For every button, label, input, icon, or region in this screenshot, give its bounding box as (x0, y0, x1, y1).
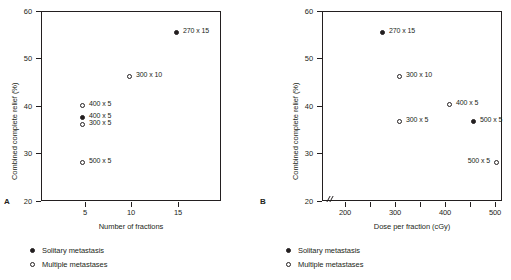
data-label-b-multiple-400x5: 400 x 5 (456, 99, 478, 106)
data-point-b-multiple-300x5[interactable] (397, 119, 402, 124)
filled-circle-icon (286, 248, 291, 253)
data-label-a-solitary-400x5: 400 x 5 (89, 112, 111, 119)
y-tick-label-a-50: 50 (10, 54, 32, 63)
open-circle-icon (30, 262, 35, 267)
legend-item-multiple-b: Multiple metastases (286, 257, 363, 271)
data-label-a-multiple-400x5: 400 x 5 (89, 100, 111, 107)
x-tick-b-350 (420, 202, 421, 207)
legend-label-multiple-b: Multiple metastases (298, 260, 363, 269)
data-point-a-multiple-300x10[interactable] (127, 74, 132, 79)
data-point-a-solitary-270x15[interactable] (174, 30, 179, 35)
legend-item-solitary-b: Solitary metastasis (286, 243, 363, 257)
data-label-a-multiple-300x5: 300 x 5 (89, 119, 111, 126)
x-tick-a-5 (85, 202, 86, 207)
chart-panel-a: A 60 50 40 30 20 5 10 15 Number of fract… (0, 0, 255, 280)
plot-area-b (322, 11, 502, 201)
data-point-a-multiple-500x5[interactable] (80, 160, 85, 165)
y-tick-label-b-60: 60 (291, 7, 313, 16)
y-tick-a-40 (36, 106, 41, 107)
x-tick-label-b-500: 500 (482, 208, 508, 217)
y-axis-title-b: Combined complete relief (%) (291, 83, 300, 180)
x-tick-b-450 (470, 202, 471, 207)
y-tick-a-60 (36, 11, 41, 12)
x-tick-label-a-5: 5 (72, 208, 98, 217)
data-label-b-multiple-300x10: 300 x 10 (406, 71, 432, 78)
x-tick-b-500 (495, 202, 496, 207)
chart-panel-b: B 60 50 40 30 20 200 300 400 500 Dose pe… (256, 0, 511, 280)
data-point-b-multiple-400x5[interactable] (447, 102, 452, 107)
y-tick-a-20 (36, 201, 41, 202)
y-tick-a-50 (36, 58, 41, 59)
data-label-b-solitary-270x15: 270 x 15 (389, 27, 415, 34)
x-tick-b-400 (445, 202, 446, 207)
legend-label-solitary-a: Solitary metastasis (42, 246, 104, 255)
data-point-b-multiple-300x10[interactable] (397, 74, 402, 79)
data-point-a-solitary-400x5[interactable] (80, 115, 85, 120)
y-tick-b-60 (317, 11, 322, 12)
data-label-b-multiple-500x5: 500 x 5 (442, 157, 490, 164)
y-tick-b-50 (317, 58, 322, 59)
data-point-b-solitary-270x15[interactable] (380, 30, 385, 35)
y-tick-b-40 (317, 106, 322, 107)
legend-b: Solitary metastasis Multiple metastases (286, 243, 363, 271)
data-point-a-multiple-300x5[interactable] (80, 122, 85, 127)
plot-area-a (41, 11, 221, 201)
y-axis-title-a: Combined complete relief (%) (10, 83, 19, 180)
filled-circle-icon (30, 248, 35, 253)
data-label-a-multiple-500x5: 500 x 5 (89, 157, 111, 164)
x-tick-b-250 (370, 202, 371, 207)
y-tick-label-a-60: 60 (10, 7, 32, 16)
y-tick-label-a-20: 20 (10, 197, 32, 206)
data-label-b-solitary-500x5: 500 x 5 (480, 116, 502, 123)
data-point-b-solitary-500x5[interactable] (471, 119, 476, 124)
legend-a: Solitary metastasis Multiple metastases (30, 243, 107, 271)
x-tick-b-200 (345, 202, 346, 207)
x-tick-label-b-300: 300 (382, 208, 408, 217)
panel-letter-b: B (260, 197, 266, 206)
y-tick-label-b-20: 20 (291, 197, 313, 206)
y-tick-a-30 (36, 153, 41, 154)
axis-break-icon (328, 196, 334, 204)
x-tick-b-300 (395, 202, 396, 207)
y-tick-b-30 (317, 153, 322, 154)
x-tick-a-10 (131, 202, 132, 207)
data-label-a-multiple-300x10: 300 x 10 (136, 71, 162, 78)
data-point-b-multiple-500x5[interactable] (494, 160, 499, 165)
x-axis-title-a: Number of fractions (61, 222, 201, 231)
legend-label-solitary-b: Solitary metastasis (298, 246, 360, 255)
panel-letter-a: A (4, 197, 10, 206)
figure-container: A 60 50 40 30 20 5 10 15 Number of fract… (0, 0, 511, 280)
data-label-b-multiple-300x5: 300 x 5 (406, 116, 428, 123)
data-point-a-multiple-400x5[interactable] (80, 103, 85, 108)
x-tick-label-a-15: 15 (165, 208, 191, 217)
legend-item-multiple-a: Multiple metastases (30, 257, 107, 271)
x-tick-label-b-200: 200 (332, 208, 358, 217)
data-label-a-solitary-270x15: 270 x 15 (183, 27, 209, 34)
x-tick-a-15 (178, 202, 179, 207)
x-tick-label-a-10: 10 (118, 208, 144, 217)
y-tick-b-20 (317, 201, 322, 202)
legend-label-multiple-a: Multiple metastases (42, 260, 107, 269)
x-axis-title-b: Dose per fraction (cGy) (342, 222, 482, 231)
open-circle-icon (286, 262, 291, 267)
legend-item-solitary-a: Solitary metastasis (30, 243, 107, 257)
x-tick-label-b-400: 400 (432, 208, 458, 217)
y-tick-label-b-50: 50 (291, 54, 313, 63)
